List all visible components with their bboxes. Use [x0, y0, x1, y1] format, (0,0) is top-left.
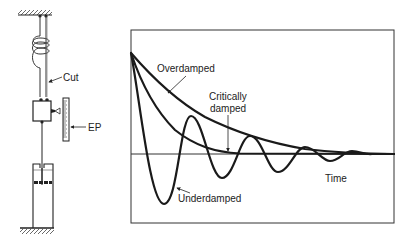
cut-arrow [49, 77, 62, 82]
cut-label: Cut [63, 72, 79, 83]
spring [33, 16, 50, 97]
time-axis-label: Time [325, 173, 347, 184]
overdamped-label: Overdamped [157, 63, 215, 74]
scale [63, 98, 69, 141]
response-chart: Overdamped Critically damped Underdamped… [131, 30, 394, 223]
diagram-canvas: Cut EP [0, 0, 415, 242]
critically-damped-label-line1: Critically [209, 91, 247, 102]
pointer [51, 108, 60, 114]
cut-wire [46, 16, 47, 97]
apparatus: Cut EP [18, 10, 102, 234]
dashpot [33, 164, 53, 228]
ceiling-mount [18, 10, 52, 18]
floor-mount [20, 228, 54, 234]
underdamped-label: Underdamped [178, 193, 241, 204]
mass-block [33, 98, 51, 123]
ep-label: EP [88, 122, 102, 133]
critically-damped-label-line2: damped [210, 103, 246, 114]
